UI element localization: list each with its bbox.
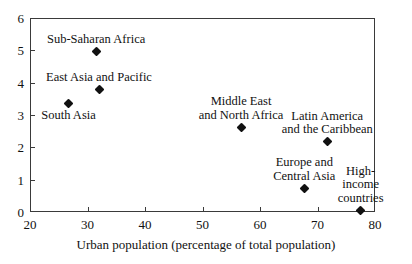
y-tick-mark <box>30 147 35 148</box>
x-axis-title: Urban population (percentage of total po… <box>0 238 412 252</box>
y-tick-label: 4 <box>2 77 24 90</box>
x-tick-mark <box>88 207 89 212</box>
data-point-label: High- income countries <box>327 165 394 206</box>
x-tick-label: 60 <box>245 218 275 231</box>
data-point-label: Latin America and the Caribbean <box>269 110 385 137</box>
x-tick-label: 80 <box>360 218 390 231</box>
y-tick-label: 1 <box>2 174 24 187</box>
x-tick-mark <box>203 207 204 212</box>
x-tick-label: 20 <box>15 218 45 231</box>
x-tick-label: 40 <box>130 218 160 231</box>
y-tick-label: 2 <box>2 141 24 154</box>
x-tick-label: 30 <box>73 218 103 231</box>
scatter-chart: 0123456 20304050607080 Sub-Saharan Afric… <box>0 0 412 264</box>
y-tick-mark <box>30 50 35 51</box>
x-tick-mark <box>145 207 146 212</box>
x-tick-label: 50 <box>188 218 218 231</box>
y-tick-label: 5 <box>2 44 24 57</box>
y-tick-label: 6 <box>2 12 24 25</box>
data-point-label: Sub-Saharan Africa <box>35 33 157 47</box>
data-point-label: South Asia <box>32 109 105 123</box>
x-tick-mark <box>318 207 319 212</box>
x-tick-label: 70 <box>303 218 333 231</box>
y-tick-mark <box>30 180 35 181</box>
y-tick-label: 3 <box>2 109 24 122</box>
x-tick-mark <box>260 207 261 212</box>
data-point-label: East Asia and Pacific <box>29 71 169 85</box>
